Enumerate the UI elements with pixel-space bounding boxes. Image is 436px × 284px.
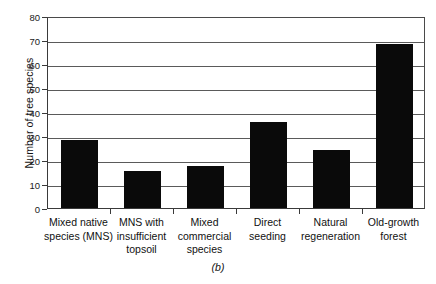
x-axis-category-label-line: regeneration [295, 230, 366, 244]
x-axis-category-label-line: species (MNS) [43, 230, 114, 244]
y-axis-tick [42, 137, 47, 138]
x-axis-tick [236, 209, 237, 214]
y-axis-tick [42, 113, 47, 114]
y-axis-tick [42, 89, 47, 90]
gridline [48, 42, 424, 43]
figure-caption: (b) [0, 261, 436, 273]
x-axis-tick [362, 209, 363, 214]
y-axis-tick [42, 209, 47, 210]
y-axis-tick [42, 161, 47, 162]
y-axis-tick [42, 65, 47, 66]
x-axis-tick [173, 209, 174, 214]
gridline [48, 90, 424, 91]
y-axis-tick-label: 10 [18, 180, 40, 191]
x-axis-category-label-line: forest [358, 230, 429, 244]
x-axis-category-label: Old-growthforest [358, 216, 429, 243]
gridline [48, 66, 424, 67]
x-axis-category-label-line: species [169, 243, 240, 257]
x-axis-category-label-line: topsoil [106, 243, 177, 257]
y-axis-tick-label: 50 [18, 84, 40, 95]
x-axis-category-label-line: MNS with [106, 216, 177, 230]
y-axis-tick-label: 40 [18, 108, 40, 119]
x-axis-tick [299, 209, 300, 214]
gridline [48, 186, 424, 187]
bar [187, 166, 224, 208]
x-axis-category-label-line: Natural [295, 216, 366, 230]
gridline [48, 162, 424, 163]
y-axis-tick [42, 17, 47, 18]
y-axis-tick [42, 185, 47, 186]
x-axis-tick [110, 209, 111, 214]
x-axis-category-label-line: Direct [232, 216, 303, 230]
x-axis-category-label-line: seeding [232, 230, 303, 244]
y-axis-tick-label: 70 [18, 36, 40, 47]
x-axis-category-label-line: Mixed native [43, 216, 114, 230]
y-axis-tick [42, 41, 47, 42]
x-axis-category-label: Mixed nativespecies (MNS) [43, 216, 114, 243]
x-axis-category-label-line: Mixed [169, 216, 240, 230]
x-axis-category-label: Naturalregeneration [295, 216, 366, 243]
x-axis-category-label: Mixedcommercialspecies [169, 216, 240, 257]
bar [250, 122, 287, 208]
y-axis-tick-label: 60 [18, 60, 40, 71]
x-axis-category-label-line: Old-growth [358, 216, 429, 230]
gridline [48, 114, 424, 115]
gridline [48, 138, 424, 139]
y-axis-tick-label: 0 [18, 204, 40, 215]
bar-chart-figure: Number of tree species 80706050403020100… [0, 0, 436, 284]
x-axis-category-label: Directseeding [232, 216, 303, 243]
y-axis-tick-label: 30 [18, 132, 40, 143]
y-axis-tick-labels: 80706050403020100 [11, 0, 40, 284]
y-axis-tick-label: 20 [18, 156, 40, 167]
bar [61, 140, 98, 208]
bar [376, 44, 413, 208]
bar [124, 171, 161, 208]
bar [313, 150, 350, 208]
x-axis-category-label-line: insufficient [106, 230, 177, 244]
x-axis-category-label: MNS withinsufficienttopsoil [106, 216, 177, 257]
plot-area [47, 17, 425, 209]
x-axis-category-label-line: commercial [169, 230, 240, 244]
y-axis-tick-label: 80 [18, 12, 40, 23]
